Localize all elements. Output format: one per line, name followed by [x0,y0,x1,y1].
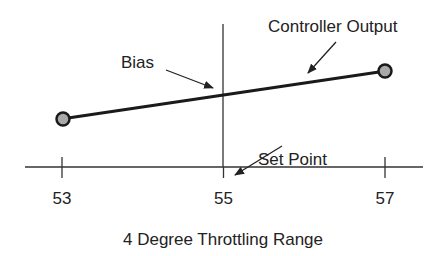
controller-output-end-point [379,65,392,78]
bias-arrow [166,70,213,88]
axis-tick-label-55: 55 [214,189,233,208]
bias-label: Bias [121,53,154,72]
controller-output-arrow [308,42,336,73]
axis-tick-label-53: 53 [53,189,72,208]
diagram-title: 4 Degree Throttling Range [123,230,323,249]
axis-tick-label-57: 57 [376,189,395,208]
throttling-range-diagram: 535557 Bias Controller Output Set Point … [0,0,446,256]
set-point-label: Set Point [258,150,327,169]
controller-output-label: Controller Output [268,17,398,36]
controller-output-start-point [57,113,70,126]
